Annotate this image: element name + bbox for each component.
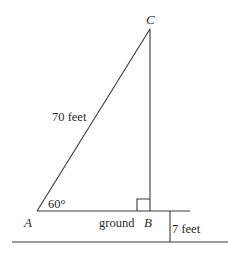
- point-a-label: A: [23, 215, 32, 230]
- height-offset-label: 7 feet: [172, 222, 201, 236]
- point-b-label: B: [144, 215, 152, 230]
- hypotenuse-label: 70 feet: [52, 110, 87, 124]
- right-angle-marker: [137, 199, 150, 211]
- triangle-diagram: C A B 70 feet 60° ground 7 feet: [0, 0, 228, 258]
- ground-label: ground: [99, 216, 135, 230]
- point-c-label: C: [146, 12, 155, 27]
- angle-a-label: 60°: [48, 197, 66, 211]
